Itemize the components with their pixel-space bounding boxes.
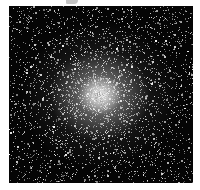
edge-smudge — [66, 0, 78, 4]
star-cluster-photo — [9, 6, 193, 183]
star-field — [9, 6, 193, 183]
